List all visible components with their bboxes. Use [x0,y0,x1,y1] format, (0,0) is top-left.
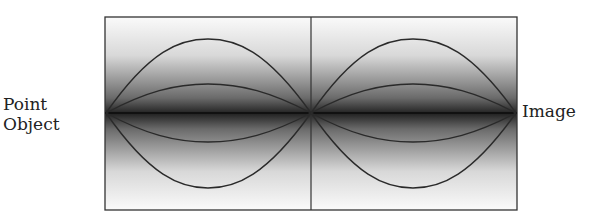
waveguide-diagram [0,0,607,221]
